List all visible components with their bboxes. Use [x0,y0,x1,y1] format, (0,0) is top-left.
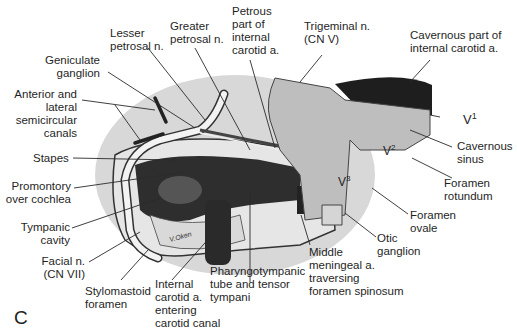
label-v2: V2 [383,141,395,158]
label-stapes: Stapes [33,152,69,165]
panel-letter: C [14,307,28,329]
internal-carotid-shape [205,200,231,265]
label-foramen-rotundum: Foramen rotundum [444,177,493,203]
label-greater-petrosal: Greater petrosal n. [170,20,224,46]
label-geniculate: Geniculate ganglion [40,54,100,80]
v1-letter: V [463,112,472,127]
label-v3: V3 [338,172,350,189]
label-petrous-carotid: Petrous part of internal carotid a. [232,5,279,57]
otic-ganglion-shape [322,205,342,225]
label-facial: Facial n. (CN VII) [20,255,85,281]
v2-sup: 2 [391,143,395,152]
v3-letter: V [338,175,346,189]
v3-sup: 3 [346,174,350,183]
label-promontory: Promontory over cochlea [5,180,71,206]
promontory-shape [158,176,202,204]
v1-sup: 1 [472,111,477,121]
label-middle-meningeal: Middle meningeal a. traversing foramen s… [309,246,404,298]
label-stylomastoid: Stylomastoid foramen [85,285,151,311]
label-tympanic-cavity: Tympanic cavity [20,221,70,247]
label-trigeminal: Trigeminal n. (CN V) [304,20,370,46]
label-cavernous-sinus: Cavernous sinus [457,140,513,166]
v2-letter: V [383,144,391,158]
label-lesser-petrosal: Lesser petrosal n. [110,27,164,53]
label-semicircular: Anterior and lateral semicircular canals [5,88,77,140]
label-cavernous-carotid: Cavernous part of internal carotid a. [410,29,501,55]
label-pharyngotympanic: Pharyngotympanic tube and tensor tympani [210,265,305,304]
label-v1: V1 [463,110,477,126]
